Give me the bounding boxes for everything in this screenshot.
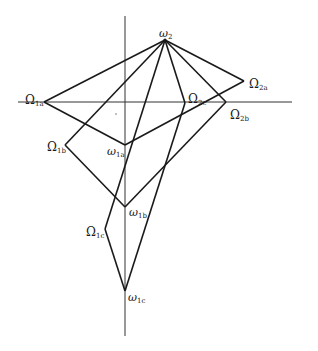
label-Omega1a: Ω1a (25, 91, 44, 108)
label-Omega2a: Ω2a (249, 75, 268, 92)
label-Omega1c: Ω1c (86, 223, 104, 240)
segment-omega2-Omega1c (105, 40, 165, 229)
segment-omega2-Omega1a (44, 40, 165, 102)
label-omega1a: ω1a (107, 142, 125, 159)
label-omega1c: ω1c (128, 288, 145, 305)
segment-omega1a-Omega2a (125, 81, 244, 145)
label-Omega1b: Ω1b (47, 138, 66, 155)
segment-omega2-Omega1b (65, 40, 165, 145)
label-omega1b: ω1b (129, 203, 147, 220)
label-omega2: ω2 (159, 24, 172, 41)
segments (44, 40, 244, 291)
label-Omega2b: Ω2b (230, 106, 249, 123)
label-Omega2c: Ω2c (188, 90, 206, 107)
diagram-canvas (0, 0, 318, 351)
stray-dot (115, 113, 116, 114)
segment-Omega1c-omega1c (105, 229, 125, 291)
